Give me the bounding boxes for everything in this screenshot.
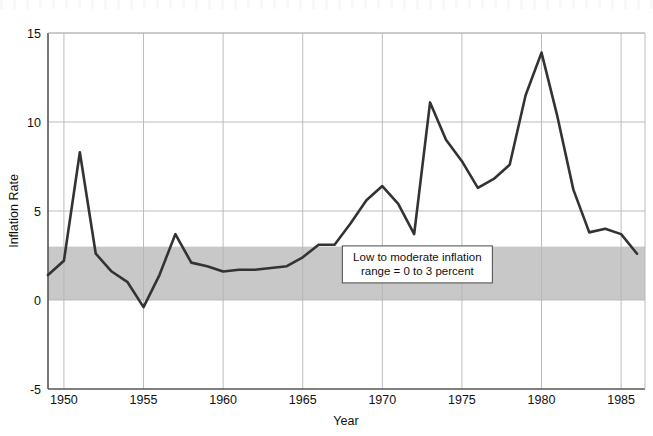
x-tick-label-1960: 1960 [209,393,237,407]
x-axis-title: Year [333,414,358,428]
y-tick-label-5: 5 [34,205,41,219]
y-tick-label-15: 15 [27,27,41,41]
y-tick-label--5: -5 [30,383,41,397]
x-tick-label-1950: 1950 [50,393,78,407]
chart-canvas: -5051015 1950195519601965197019751980198… [0,0,653,436]
x-tick-label-1975: 1975 [448,393,476,407]
inflation-band-note-line1: Low to moderate inflation [353,251,482,263]
inflation-rate-line-chart: -5051015 1950195519601965197019751980198… [0,0,653,436]
annotation-callout: Low to moderate inflationrange = 0 to 3 … [342,246,492,283]
y-tick-label-10: 10 [27,116,41,130]
x-tick-label-1985: 1985 [607,393,635,407]
x-axis-tick-labels: 19501955196019651970197519801985 [50,393,635,407]
y-axis-tick-labels: -5051015 [27,27,41,397]
inflation-band-note-line2: range = 0 to 3 percent [361,265,475,277]
x-tick-label-1970: 1970 [368,393,396,407]
y-axis-title: Inflation Rate [7,174,21,248]
y-tick-label-0: 0 [34,294,41,308]
x-tick-label-1980: 1980 [528,393,556,407]
x-tick-label-1965: 1965 [289,393,317,407]
x-tick-label-1955: 1955 [130,393,158,407]
